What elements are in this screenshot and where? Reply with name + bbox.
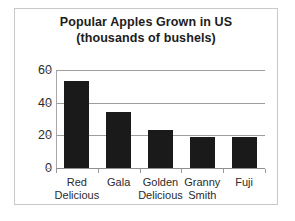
x-tick-label-line: Smith [175, 189, 229, 202]
chart-subtitle: (thousands of bushels) [14, 31, 278, 46]
x-tick-mark-0 [56, 169, 57, 173]
x-tick-mark-4 [223, 169, 224, 173]
bar-golden-delicious [148, 130, 173, 168]
y-tick-mark-40 [46, 103, 51, 104]
bar-granny-smith [190, 137, 215, 168]
x-tick-mark-2 [140, 169, 141, 173]
bar-chart-figure: Popular Apples Grown in US (thousands of… [0, 0, 295, 221]
bar-fuji [232, 137, 257, 168]
x-tick-mark-3 [181, 169, 182, 173]
x-tick-label-line: Delicious [50, 189, 104, 202]
y-tick-mark-20 [46, 135, 51, 136]
x-tick-mark-5 [265, 169, 266, 173]
chart-title: Popular Apples Grown in US [14, 15, 278, 30]
bar-red-delicious [64, 81, 89, 168]
bar-gala [106, 112, 131, 168]
x-tick-label-line: Fuji [217, 176, 271, 189]
x-axis-line [56, 168, 265, 169]
y-tick-mark-0 [46, 168, 51, 169]
plot-area [56, 70, 265, 168]
x-tick-label-fuji: Fuji [217, 176, 271, 189]
y-axis-tick-labels: 0204060 [10, 70, 52, 168]
gridline-60 [56, 70, 265, 71]
y-tick-mark-60 [46, 70, 51, 71]
x-tick-mark-1 [98, 169, 99, 173]
